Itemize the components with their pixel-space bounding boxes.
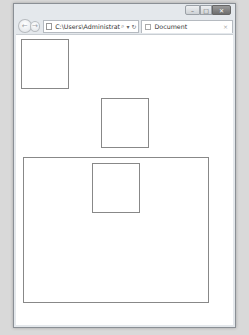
container-box bbox=[23, 157, 209, 303]
tab-label: Document bbox=[154, 23, 222, 30]
page-icon bbox=[46, 23, 52, 30]
address-bar[interactable]: C:\Users\Administrat ⌕ ▾ ↻ bbox=[43, 20, 139, 33]
dropdown-icon[interactable]: ▾ bbox=[126, 23, 129, 30]
forward-arrow-icon: → bbox=[32, 22, 38, 30]
search-icon[interactable]: ⌕ bbox=[121, 22, 124, 30]
box-middle bbox=[101, 98, 149, 148]
minimize-icon: – bbox=[191, 7, 194, 14]
address-text[interactable]: C:\Users\Administrat bbox=[55, 23, 121, 30]
forward-button[interactable]: → bbox=[30, 21, 41, 32]
maximize-button[interactable]: □ bbox=[200, 5, 212, 15]
address-tools: ⌕ ▾ ↻ bbox=[121, 22, 138, 30]
tab-close-icon[interactable]: × bbox=[223, 23, 232, 30]
tab-document[interactable]: Document × bbox=[141, 20, 233, 33]
inner-box bbox=[92, 163, 140, 213]
window-controls: – □ ✕ bbox=[185, 5, 231, 15]
title-bar[interactable]: – □ ✕ bbox=[14, 4, 235, 18]
browser-window: – □ ✕ ← → C:\Users\Administrat ⌕ ▾ ↻ Doc… bbox=[13, 3, 236, 328]
navigation-toolbar: ← → C:\Users\Administrat ⌕ ▾ ↻ Document … bbox=[16, 18, 233, 34]
box-top-left bbox=[21, 39, 69, 89]
back-arrow-icon: ← bbox=[22, 22, 28, 30]
tab-page-icon bbox=[145, 24, 151, 30]
close-button[interactable]: ✕ bbox=[212, 5, 231, 15]
minimize-button[interactable]: – bbox=[185, 5, 200, 15]
page-content bbox=[16, 34, 233, 325]
refresh-icon[interactable]: ↻ bbox=[131, 23, 136, 30]
maximize-icon: □ bbox=[203, 7, 209, 14]
close-icon: ✕ bbox=[219, 7, 224, 14]
